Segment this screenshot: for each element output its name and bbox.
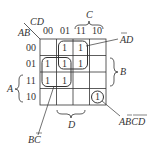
label-AbarD: AD <box>119 33 134 45</box>
svg-text:AD: AD <box>119 34 134 45</box>
cell-10-10: 1 <box>95 91 100 102</box>
leader-AbarD <box>86 39 118 46</box>
leader-ABbarCbarDbar <box>102 101 120 116</box>
brace-D <box>57 110 85 118</box>
brace-A <box>15 75 23 102</box>
row-label-11: 11 <box>26 75 36 86</box>
label-ABbarCbarDbar: ABCD <box>118 115 147 127</box>
cell-01-01: 1 <box>62 58 67 69</box>
col-label-10: 10 <box>92 25 102 36</box>
cell-01-00: 1 <box>45 58 50 69</box>
brace-label-A: A <box>6 83 14 94</box>
brace-B <box>110 58 118 86</box>
label-BCbar: BC <box>28 133 42 145</box>
col-label-01: 01 <box>60 25 70 36</box>
col-label-11: 11 <box>76 25 86 36</box>
row-var-label: AB <box>17 27 30 38</box>
svg-text:ABCD: ABCD <box>118 116 146 127</box>
karnaugh-map: CD AB 00 01 11 10 00 01 11 10 1 1 1 1 1 … <box>0 0 155 153</box>
cell-11-01: 1 <box>62 75 67 86</box>
row-label-01: 01 <box>26 58 36 69</box>
cell-01-11: 1 <box>78 58 83 69</box>
cell-00-01: 1 <box>62 42 67 53</box>
cell-11-00: 1 <box>45 75 50 86</box>
row-label-10: 10 <box>26 91 36 102</box>
brace-label-D: D <box>67 119 76 130</box>
col-label-00: 00 <box>43 25 53 36</box>
cell-00-11: 1 <box>78 42 83 53</box>
row-label-00: 00 <box>26 42 36 53</box>
brace-label-B: B <box>120 66 126 77</box>
svg-text:BC: BC <box>28 134 41 145</box>
brace-label-C: C <box>86 9 93 20</box>
